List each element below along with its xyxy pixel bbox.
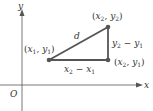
x-axis-label: x	[144, 80, 149, 90]
origin-label: O	[10, 89, 18, 99]
distance-diagram: y x O (x1, y1) (x2, y2) (x2, y1) d x2 − …	[0, 0, 153, 111]
x-axis-arrow-icon	[136, 83, 143, 88]
point-p1	[47, 58, 52, 63]
point-p1-label: (x1, y1)	[24, 44, 55, 55]
horizontal-length-label: x2 − x1	[64, 64, 95, 75]
y-axis-label: y	[17, 1, 24, 11]
point-p3	[106, 58, 111, 63]
hypotenuse-label: d	[74, 31, 80, 41]
point-p2	[106, 25, 111, 30]
point-p3-label: (x2, y1)	[114, 57, 145, 68]
vertical-length-label: y2 − y1	[111, 38, 143, 49]
point-p2-label: (x2, y2)	[92, 11, 123, 22]
